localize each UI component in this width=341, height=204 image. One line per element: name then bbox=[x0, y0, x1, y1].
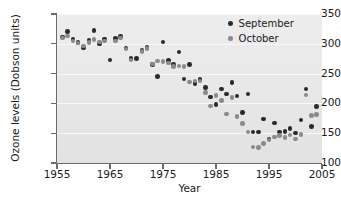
data-point bbox=[145, 46, 150, 51]
x-axis-title: Year bbox=[57, 182, 322, 194]
data-point bbox=[203, 90, 208, 95]
data-point bbox=[171, 64, 176, 69]
data-point bbox=[134, 56, 139, 61]
data-point bbox=[261, 117, 266, 122]
x-tick-label: 2005 bbox=[302, 168, 341, 180]
x-tick-label: 1995 bbox=[249, 168, 289, 180]
data-point bbox=[182, 64, 187, 69]
y-tick bbox=[51, 73, 56, 74]
legend-label-september: September bbox=[239, 18, 294, 29]
data-point bbox=[283, 135, 288, 140]
data-point bbox=[224, 112, 229, 117]
data-point bbox=[240, 121, 245, 126]
data-point bbox=[87, 40, 92, 45]
x-tick-label: 1975 bbox=[143, 168, 183, 180]
data-point bbox=[129, 58, 134, 63]
legend-item-september: September bbox=[228, 16, 294, 31]
gridline bbox=[57, 103, 322, 104]
data-point bbox=[314, 112, 319, 117]
data-point bbox=[230, 95, 235, 100]
y-tick-label: 200 bbox=[295, 96, 341, 108]
data-point bbox=[251, 145, 256, 150]
data-point bbox=[235, 94, 240, 99]
data-point bbox=[208, 95, 213, 100]
y-axis-line bbox=[56, 13, 57, 164]
y-tick bbox=[51, 133, 56, 134]
data-point bbox=[267, 138, 272, 143]
data-point bbox=[161, 59, 166, 64]
data-point bbox=[108, 58, 113, 63]
data-point bbox=[198, 79, 203, 84]
legend-item-october: October bbox=[228, 31, 294, 46]
y-tick bbox=[51, 13, 56, 14]
data-point bbox=[277, 133, 282, 138]
gridline bbox=[57, 74, 322, 75]
data-point bbox=[288, 133, 293, 138]
y-tick-label: 150 bbox=[295, 126, 341, 138]
y-tick-label: 250 bbox=[295, 67, 341, 79]
data-point bbox=[235, 114, 240, 119]
data-point bbox=[272, 135, 277, 140]
data-point bbox=[224, 92, 229, 97]
legend-marker-icon-october bbox=[228, 36, 233, 41]
data-point bbox=[65, 34, 70, 39]
data-point bbox=[246, 92, 251, 97]
y-tick bbox=[51, 43, 56, 44]
data-point bbox=[256, 130, 261, 135]
x-axis-line bbox=[56, 163, 322, 164]
ozone-scatter-chart: Ozone levels (Dobson units) 100150200250… bbox=[0, 0, 341, 204]
data-point bbox=[177, 50, 182, 55]
data-point bbox=[208, 104, 213, 109]
legend: September October bbox=[228, 16, 294, 46]
data-point bbox=[118, 36, 123, 41]
data-point bbox=[97, 40, 102, 45]
data-point bbox=[60, 36, 65, 41]
data-point bbox=[288, 126, 293, 131]
data-point bbox=[182, 77, 187, 82]
data-point bbox=[309, 113, 314, 118]
legend-marker-icon-september bbox=[228, 21, 233, 26]
y-tick bbox=[51, 162, 56, 163]
x-tick-label: 1965 bbox=[90, 168, 130, 180]
data-point bbox=[71, 39, 76, 44]
data-point bbox=[219, 87, 224, 92]
legend-label-october: October bbox=[239, 33, 279, 44]
data-point bbox=[177, 64, 182, 69]
data-point bbox=[203, 85, 208, 90]
data-point bbox=[140, 49, 145, 54]
data-point bbox=[187, 62, 192, 67]
data-point bbox=[102, 39, 107, 44]
data-point bbox=[92, 37, 97, 42]
data-point bbox=[65, 29, 70, 34]
data-point bbox=[150, 62, 155, 67]
x-tick-label: 1985 bbox=[196, 168, 236, 180]
data-point bbox=[283, 129, 288, 134]
data-point bbox=[124, 47, 129, 52]
data-point bbox=[272, 121, 277, 126]
y-tick-label: 350 bbox=[295, 7, 341, 19]
data-point bbox=[193, 79, 198, 84]
data-point bbox=[230, 80, 235, 85]
y-tick-label: 300 bbox=[295, 37, 341, 49]
data-point bbox=[155, 74, 160, 79]
data-point bbox=[214, 93, 219, 98]
data-point bbox=[261, 141, 266, 146]
x-tick-label: 1955 bbox=[37, 168, 77, 180]
data-point bbox=[240, 110, 245, 115]
data-point bbox=[219, 98, 224, 103]
y-tick-label: 100 bbox=[295, 156, 341, 168]
data-point bbox=[187, 80, 192, 85]
gridline bbox=[57, 14, 322, 15]
data-point bbox=[304, 87, 309, 92]
data-point bbox=[113, 39, 118, 44]
data-point bbox=[92, 28, 97, 33]
y-tick bbox=[51, 103, 56, 104]
gridline bbox=[57, 133, 322, 134]
data-point bbox=[256, 145, 261, 150]
data-point bbox=[155, 59, 160, 64]
data-point bbox=[166, 61, 171, 66]
y-axis-title: Ozone levels (Dobson units) bbox=[6, 8, 24, 168]
data-point bbox=[299, 118, 304, 123]
data-point bbox=[214, 102, 219, 107]
